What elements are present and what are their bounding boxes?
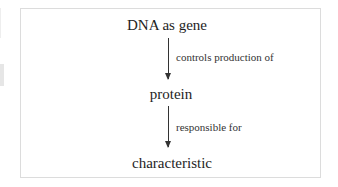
arrow-down-icon — [168, 106, 169, 147]
edge-label-responsible-for: responsible for — [176, 121, 242, 133]
arrow-down-icon — [168, 38, 169, 79]
node-dna-as-gene: DNA as gene — [127, 17, 207, 33]
node-protein: protein — [150, 86, 193, 102]
side-tab — [0, 64, 4, 86]
node-characteristic: characteristic — [132, 155, 212, 171]
edge-label-controls-production: controls production of — [176, 51, 274, 63]
page-edge-line — [0, 8, 1, 38]
